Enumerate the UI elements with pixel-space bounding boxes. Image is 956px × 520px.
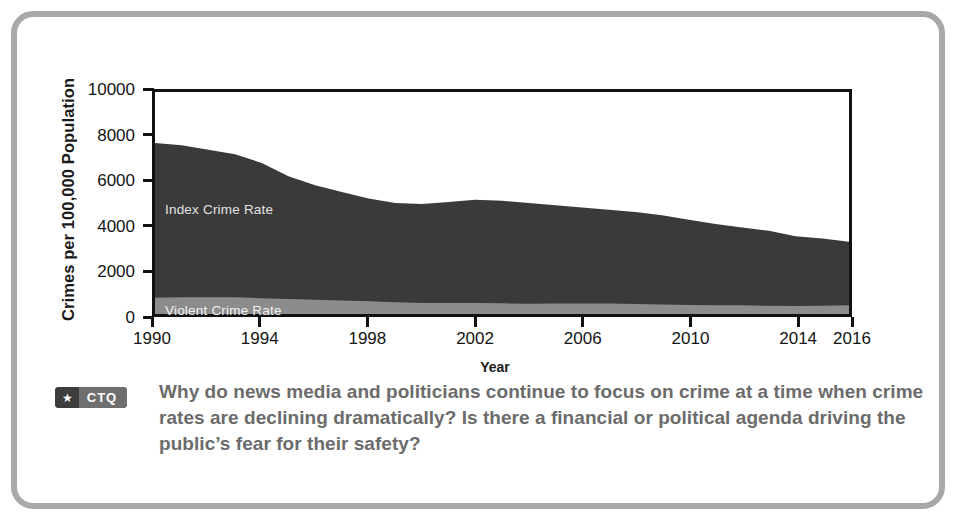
- figure-border-frame: Crimes per 100,000 Population 0200040006…: [11, 11, 945, 509]
- x-axis-tick-label: 1990: [117, 330, 187, 347]
- x-axis-tick-mark: [474, 317, 477, 327]
- y-axis-title: Crimes per 100,000 Population: [59, 66, 78, 334]
- ctq-badge: ★ CTQ: [55, 387, 127, 408]
- y-axis-tick-label: 2000: [69, 263, 135, 280]
- x-axis-title: Year: [17, 359, 956, 375]
- y-axis-tick-label: 6000: [69, 172, 135, 189]
- x-axis-tick-mark: [258, 317, 261, 327]
- x-axis-tick-label: 2006: [548, 330, 618, 347]
- y-axis-tick-label: 8000: [69, 127, 135, 144]
- x-axis-tick-label: 2016: [817, 330, 887, 347]
- y-axis-tick-label: 10000: [69, 81, 135, 98]
- x-axis-tick-label: 1998: [332, 330, 402, 347]
- x-axis-tick-mark: [851, 317, 854, 327]
- x-axis-tick-label: 1994: [225, 330, 295, 347]
- star-icon: ★: [55, 387, 79, 408]
- y-axis-tick-label: 0: [69, 309, 135, 326]
- y-axis-tick-label: 4000: [69, 218, 135, 235]
- ctq-badge-label: CTQ: [79, 387, 127, 408]
- x-axis-tick-label: 2002: [440, 330, 510, 347]
- x-axis-tick-mark: [581, 317, 584, 327]
- x-axis-tick-label: 2010: [655, 330, 725, 347]
- x-axis-tick-mark: [151, 317, 154, 327]
- series-label-violent-crime-rate: Violent Crime Rate: [165, 303, 282, 318]
- figure-root: Crimes per 100,000 Population 0200040006…: [0, 0, 956, 520]
- ctq-question-text: Why do news media and politicians contin…: [159, 379, 934, 458]
- x-axis-tick-mark: [366, 317, 369, 327]
- series-label-index-crime-rate: Index Crime Rate: [165, 202, 273, 217]
- x-axis-tick-mark: [689, 317, 692, 327]
- x-axis-tick-mark: [797, 317, 800, 327]
- area-series-index-crime-rate: [155, 143, 849, 314]
- critical-thinking-question-block: ★ CTQ Why do news media and politicians …: [55, 383, 935, 493]
- crime-rate-area-chart: Crimes per 100,000 Population 0200040006…: [17, 17, 956, 382]
